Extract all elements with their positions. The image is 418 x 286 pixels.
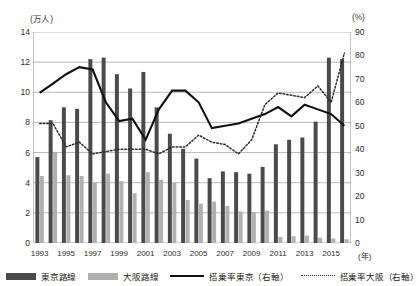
legend-swatch-osaka-icon <box>88 273 118 280</box>
bar <box>146 172 150 243</box>
bar <box>53 152 57 243</box>
legend-item[interactable]: 搭乗率大阪（右軸） <box>301 270 418 282</box>
bar <box>247 174 251 243</box>
y2-axis-tick: 0 <box>355 239 377 248</box>
bar <box>265 211 269 243</box>
y2-axis-tick: 40 <box>355 145 377 154</box>
y-axis-tick: 6 <box>8 149 30 158</box>
y-axis-tick: 12 <box>8 58 30 67</box>
y2-axis-tick: 50 <box>355 122 377 131</box>
bar <box>340 59 344 243</box>
bar <box>49 120 53 243</box>
bar <box>119 181 123 243</box>
bar <box>141 72 145 243</box>
bar <box>40 176 44 243</box>
bar <box>278 237 282 243</box>
bar <box>102 58 106 243</box>
plot-svg <box>33 32 351 243</box>
legend-line-dotted-icon <box>301 272 335 280</box>
bar <box>75 109 79 243</box>
bar <box>199 204 203 243</box>
legend-item[interactable]: 大阪路線 <box>88 270 158 282</box>
bar <box>234 172 238 243</box>
bar <box>93 183 97 243</box>
bar <box>212 202 216 243</box>
bar <box>35 157 39 243</box>
y-axis-tick: 10 <box>8 88 30 97</box>
legend-item[interactable]: 搭乗率東京（右軸） <box>170 270 288 282</box>
bar <box>168 134 172 243</box>
y-axis-tick: 8 <box>8 118 30 127</box>
legend-line-solid-icon <box>170 272 204 280</box>
bar <box>194 159 198 243</box>
bar <box>62 107 66 243</box>
bar <box>300 138 304 244</box>
y-axis-tick: 4 <box>8 179 30 188</box>
bar <box>133 193 137 243</box>
right-axis-unit-label: (%) <box>352 12 365 22</box>
bar <box>239 211 243 243</box>
bar <box>159 180 163 243</box>
y2-axis-tick: 60 <box>355 98 377 107</box>
bar <box>80 176 84 243</box>
bar <box>181 149 185 243</box>
bar <box>287 140 291 243</box>
bar <box>305 235 309 243</box>
bar <box>172 183 176 243</box>
bar <box>208 178 212 243</box>
chart-legend: 東京路線大阪路線搭乗率東京（右軸）搭乗率大阪（右軸） <box>0 268 399 284</box>
legend-item[interactable]: 東京路線 <box>6 270 76 282</box>
y-axis-tick: 14 <box>8 28 30 37</box>
legend-label: 搭乗率大阪（右軸） <box>340 270 418 282</box>
bar <box>318 238 322 243</box>
bar <box>225 206 229 243</box>
line-series <box>40 67 345 140</box>
bar <box>314 122 318 243</box>
y2-axis-tick: 80 <box>355 51 377 60</box>
bar <box>66 175 70 243</box>
bar <box>106 174 110 243</box>
bar <box>186 200 190 243</box>
bar <box>115 74 119 243</box>
y2-axis-tick: 90 <box>355 28 377 37</box>
y2-axis-tick: 30 <box>355 169 377 178</box>
legend-swatch-tokyo-icon <box>6 273 36 280</box>
bar <box>331 238 335 243</box>
bar <box>292 236 296 243</box>
bar <box>261 167 265 243</box>
left-axis-unit-label: (万人) <box>30 12 53 24</box>
legend-label: 東京路線 <box>41 270 76 282</box>
bar <box>155 107 159 243</box>
legend-label: 搭乗率東京（右軸） <box>209 270 288 282</box>
y2-axis-tick: 20 <box>355 192 377 201</box>
plot-area <box>33 32 351 243</box>
bar <box>327 58 331 243</box>
y2-axis-tick: 70 <box>355 75 377 84</box>
x-axis-unit-label: (年) <box>358 250 371 261</box>
bar <box>345 239 349 243</box>
bar <box>221 171 225 243</box>
y2-axis-tick: 10 <box>355 216 377 225</box>
bar <box>128 89 132 243</box>
bar <box>252 212 256 243</box>
y-axis-tick: 0 <box>8 239 30 248</box>
x-axis-tick: 2015 <box>314 250 348 258</box>
bar <box>274 144 278 243</box>
y-axis-tick: 2 <box>8 209 30 218</box>
legend-label: 大阪路線 <box>123 270 158 282</box>
